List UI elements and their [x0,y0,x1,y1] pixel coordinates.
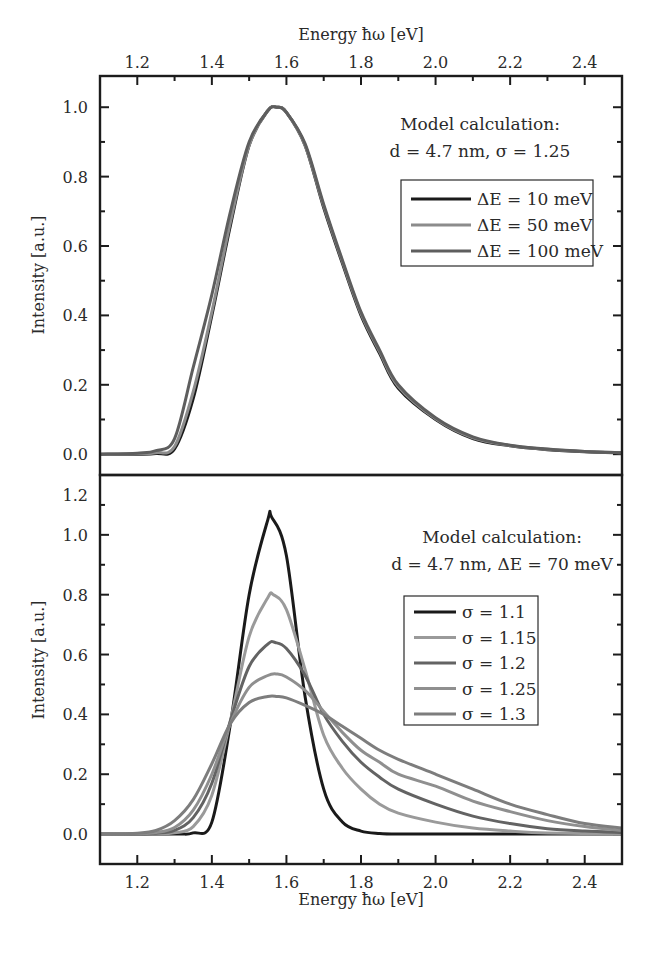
x-tick-label: 2.2 [497,53,522,72]
y-tick-label: 0.4 [63,705,88,724]
top-annotation-line-1: Model calculation: [400,114,560,134]
top-x-axis-title: Energy ħω [eV] [298,25,423,44]
legend-label: ΔE = 50 meV [477,215,593,235]
legend-label: σ = 1.1 [462,602,526,622]
x-tick-label: 1.8 [348,873,373,892]
y-tick-label: 1.0 [63,526,88,545]
x-tick-label: 1.8 [348,53,373,72]
y-tick-label: 0.0 [63,445,88,464]
x-tick-label: 1.2 [125,873,150,892]
y-tick-label: 0.2 [63,765,88,784]
legend-label: σ = 1.15 [462,628,537,648]
top-plot-frame [100,76,622,475]
x-tick-label: 1.6 [274,53,299,72]
y-tick-label: 0.6 [63,646,88,665]
legend-label: σ = 1.2 [462,653,526,673]
legend-label: ΔE = 100 meV [477,241,604,261]
legend-label: σ = 1.25 [462,679,537,699]
figure: Energy ħω [eV] Intensity [a.u.] 1.21.41.… [0,0,651,956]
x-tick-label: 2.0 [423,53,448,72]
bottom-annotation-line-2: d = 4.7 nm, ΔE = 70 meV [391,554,613,574]
series-line-4 [100,674,622,834]
x-tick-label: 1.6 [274,873,299,892]
bottom-panel: Energy ħω [eV] Intensity [a.u.] 1.21.41.… [29,475,622,909]
y-tick-label: 0.8 [63,168,88,187]
x-tick-label: 2.4 [572,53,597,72]
x-tick-label: 2.4 [572,873,597,892]
y-tick-label: 1.2 [63,486,88,505]
series-line-2 [100,593,622,834]
top-y-axis-title: Intensity [a.u.] [29,215,48,334]
y-tick-label: 0.4 [63,306,88,325]
y-tick-label: 1.0 [63,98,88,117]
x-tick-label: 1.4 [199,873,224,892]
y-tick-label: 0.0 [63,825,88,844]
bottom-y-axis-title: Intensity [a.u.] [29,600,48,719]
top-annotation-line-2: d = 4.7 nm, σ = 1.25 [390,141,571,161]
bottom-annotation-line-1: Model calculation: [422,527,582,547]
y-tick-label: 0.8 [63,586,88,605]
series-line-5 [100,696,622,834]
bottom-x-axis-title: Energy ħω [eV] [298,890,423,909]
x-tick-label: 1.4 [199,53,224,72]
legend-label: σ = 1.3 [462,704,526,724]
legend-label: ΔE = 10 meV [477,189,593,209]
x-tick-label: 1.2 [125,53,150,72]
y-tick-label: 0.6 [63,237,88,256]
x-tick-label: 2.2 [497,873,522,892]
top-panel: Energy ħω [eV] Intensity [a.u.] 1.21.41.… [29,25,622,475]
bottom-legend: σ = 1.1σ = 1.15σ = 1.2σ = 1.25σ = 1.3 [414,602,537,724]
y-tick-label: 0.2 [63,376,88,395]
x-tick-label: 2.0 [423,873,448,892]
top-legend: ΔE = 10 meVΔE = 50 meVΔE = 100 meV [411,189,604,261]
